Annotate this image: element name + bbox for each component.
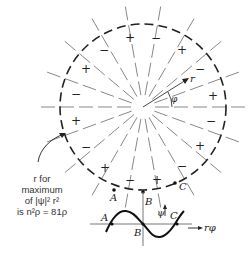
minus-sign: − (125, 173, 135, 187)
minus-sign: − (71, 87, 81, 101)
point-c (173, 181, 177, 185)
nodal-line (125, 119, 141, 211)
caption-line-1: r for (2, 173, 82, 184)
nodal-line (91, 16, 138, 97)
caption: r for maximum of |ψ|² r² is n²ρ = 81ρ (2, 173, 82, 217)
rphi-label: rφ (204, 222, 216, 233)
plus-sign: + (71, 114, 81, 128)
plus-sign: + (208, 89, 218, 103)
inset-label-c: C (170, 210, 178, 221)
caption-line-4: is n²ρ = 81ρ (2, 206, 82, 217)
plus-sign: + (81, 62, 91, 76)
plus-sign: + (152, 173, 162, 187)
minus-sign: − (177, 159, 187, 173)
caption-pointer (38, 134, 64, 162)
phi-label: φ (171, 94, 178, 104)
x-arrow-icon (198, 226, 203, 230)
plus-sign: + (125, 31, 135, 45)
minus-sign: − (206, 114, 216, 128)
point-label-a: A (109, 192, 117, 203)
plus-sign: + (177, 43, 187, 57)
plus-sign: + (100, 161, 110, 175)
circle-points: ABC (109, 181, 187, 207)
minus-sign: − (151, 31, 161, 45)
r-arrow-icon (182, 78, 189, 84)
nodal-line (145, 4, 161, 96)
point-label-c: C (179, 181, 187, 192)
nodal-diagram: +−+−+−+−+−+−+−+− r φ ABC A B C ψ rφ (0, 0, 251, 256)
inset-label-b: B (133, 227, 141, 238)
minus-sign: − (81, 140, 91, 154)
sign-labels: +−+−+−+−+−+−+−+− (71, 31, 218, 187)
minus-sign: − (99, 43, 109, 57)
caption-line-2: maximum (2, 184, 82, 195)
plus-sign: + (195, 139, 205, 153)
point-label-b: B (144, 196, 152, 207)
minus-sign: − (195, 62, 205, 76)
nodal-line (149, 16, 196, 97)
nodal-line (125, 4, 141, 96)
inset-wave-plot: A B C ψ rφ (90, 192, 216, 246)
caption-line-3: of |ψ|² r² (2, 195, 82, 206)
inset-label-a: A (100, 212, 108, 223)
polar-coordinates: r φ (143, 73, 196, 107)
